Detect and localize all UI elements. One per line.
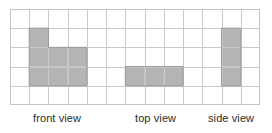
side-view-cell	[222, 67, 241, 86]
grid-svg	[10, 9, 260, 105]
front-view-cell	[29, 67, 48, 86]
front-view-cell	[48, 67, 67, 86]
top-view-label: top view	[135, 112, 176, 124]
top-view-cell	[125, 67, 144, 86]
shaded-cells-group	[29, 28, 241, 86]
top-view-cell	[145, 67, 164, 86]
side-view-cell	[222, 28, 241, 47]
front-view-cell	[29, 28, 48, 47]
side-view-cell	[222, 47, 241, 66]
top-view-cell	[164, 67, 183, 86]
front-view-cell	[68, 67, 87, 86]
front-view-label: front view	[33, 112, 81, 124]
orthographic-views-figure: front view top view side view	[0, 0, 272, 133]
view-labels: front view top view side view	[0, 110, 272, 130]
grid-container	[10, 9, 260, 105]
front-view-cell	[29, 47, 48, 66]
front-view-cell	[68, 47, 87, 66]
side-view-label: side view	[208, 112, 254, 124]
front-view-cell	[48, 47, 67, 66]
